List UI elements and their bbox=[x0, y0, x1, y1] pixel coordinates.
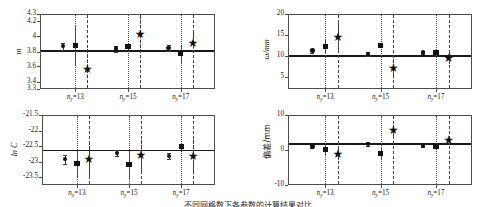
panel-deviation-xtick-label-17: ny=17 bbox=[412, 189, 460, 199]
panel-deviation-xtick-label-15: ny=15 bbox=[357, 189, 405, 199]
panel-deviation-ytick-mark bbox=[285, 115, 288, 116]
panel-deviation-marker-circle bbox=[421, 143, 425, 147]
panel-deviation-ytick-label: 10 bbox=[252, 111, 284, 118]
panel-deviation-separator-dotted bbox=[436, 116, 437, 184]
panel-deviation-marker-star: ★ bbox=[443, 134, 455, 146]
group-value: =13 bbox=[322, 189, 333, 197]
panel-deviation-ytick-mark bbox=[285, 150, 288, 151]
panel-deviation: -10010偏差/mmny=13ny=15ny=17★★★ bbox=[0, 0, 495, 207]
figure-caption: 不同网格数下各参数的计算结果对比 bbox=[0, 199, 495, 207]
panel-deviation-separator-dashed bbox=[449, 116, 450, 184]
panel-deviation-marker-square bbox=[378, 151, 383, 156]
panel-deviation-marker-square bbox=[323, 147, 328, 152]
panel-deviation-ytick-mark bbox=[285, 185, 288, 186]
panel-deviation-xtick-label-13: ny=13 bbox=[301, 189, 349, 199]
panel-deviation-marker-square bbox=[433, 144, 438, 149]
panel-deviation-marker-star: ★ bbox=[332, 148, 344, 160]
panel-deviation-xtick-mark bbox=[436, 185, 437, 188]
panel-deviation-ytick-label: -10 bbox=[252, 181, 284, 188]
panel-deviation-marker-star: ★ bbox=[387, 124, 399, 136]
panel-deviation-y-axis-label: 偏差/mm bbox=[261, 143, 272, 159]
figure-root: 3.33.43.63.844.24.3mny=13ny=15ny=17★★★51… bbox=[0, 0, 495, 207]
panel-deviation-xtick-mark bbox=[325, 185, 326, 188]
group-value: =15 bbox=[378, 189, 389, 197]
panel-deviation-xtick-mark bbox=[381, 185, 382, 188]
panel-deviation-marker-circle bbox=[310, 144, 314, 148]
group-value: =17 bbox=[433, 189, 444, 197]
